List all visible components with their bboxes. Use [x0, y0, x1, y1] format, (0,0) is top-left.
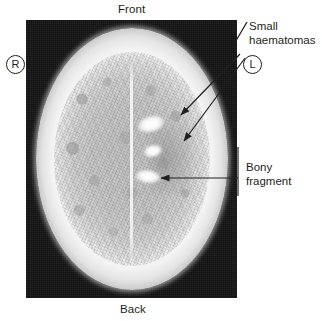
right-side-marker: R: [6, 55, 25, 74]
haematomas-label-line-2: haematomas: [249, 34, 315, 48]
ct-head-figure: Front Back R L Small: [0, 0, 322, 321]
left-side-marker: L: [243, 55, 262, 74]
ct-scan-image: [26, 20, 237, 298]
falx-cerebri-midline: [130, 58, 133, 266]
haematomas-label-line-1: Small: [249, 20, 315, 34]
fragment-label-line-2: fragment: [246, 175, 291, 189]
back-orientation-label: Back: [120, 303, 146, 315]
fragment-label-line-1: Bony: [246, 161, 291, 175]
annotation-label-bony-fragment: Bony fragment: [246, 161, 291, 188]
perilesional-oedema: [150, 124, 190, 194]
front-orientation-label: Front: [118, 3, 145, 15]
annotation-label-small-haematomas: Small haematomas: [249, 20, 315, 47]
